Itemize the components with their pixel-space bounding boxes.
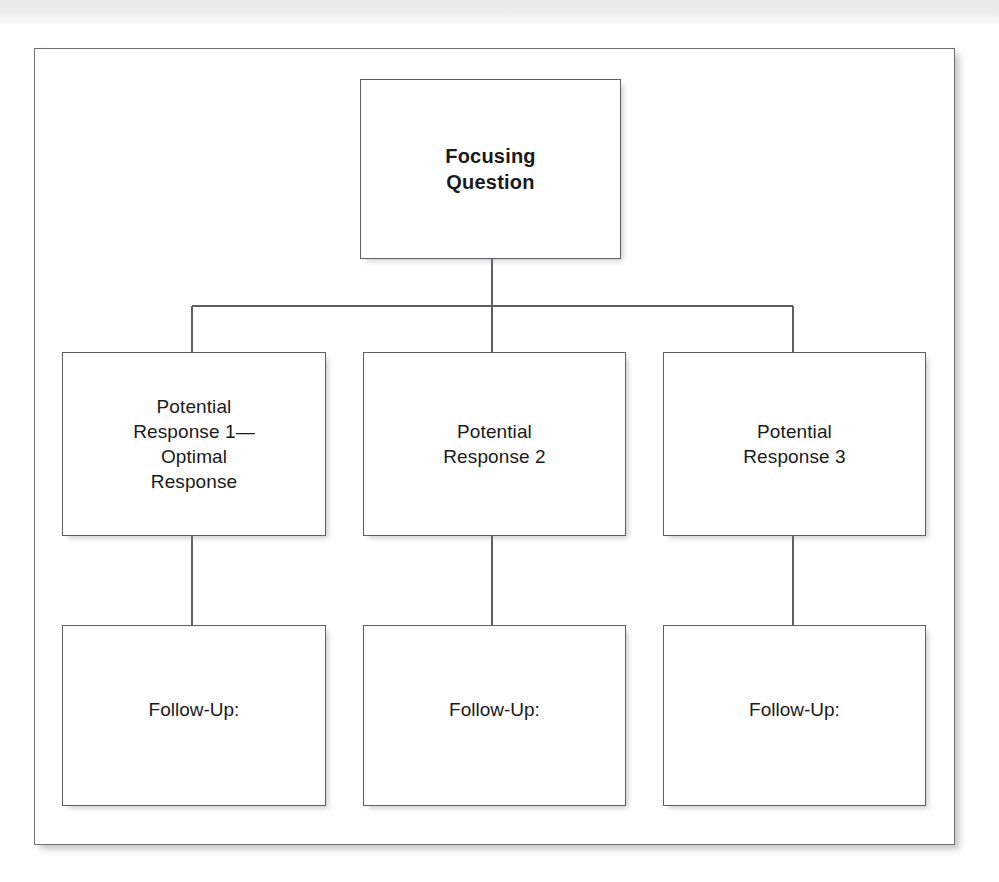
node-focusing-question-label: Focusing Question <box>435 143 546 196</box>
node-follow-up-2[interactable]: Follow-Up: <box>363 625 626 806</box>
node-potential-response-2[interactable]: Potential Response 2 <box>363 352 626 536</box>
node-follow-up-2-label: Follow-Up: <box>439 697 550 722</box>
node-potential-response-3-label: Potential Response 3 <box>733 419 855 469</box>
node-follow-up-1-label: Follow-Up: <box>139 697 250 722</box>
node-follow-up-1[interactable]: Follow-Up: <box>62 625 326 806</box>
node-potential-response-1[interactable]: Potential Response 1— Optimal Response <box>62 352 326 536</box>
node-focusing-question[interactable]: Focusing Question <box>360 79 621 259</box>
node-potential-response-1-label: Potential Response 1— Optimal Response <box>123 394 265 494</box>
scanned-page-header-strip: •••••••••••••••••••••••••••••• <box>0 0 999 26</box>
node-potential-response-3[interactable]: Potential Response 3 <box>663 352 926 536</box>
node-follow-up-3[interactable]: Follow-Up: <box>663 625 926 806</box>
node-follow-up-3-label: Follow-Up: <box>739 697 850 722</box>
node-potential-response-2-label: Potential Response 2 <box>433 419 555 469</box>
cropped-header-text: •••••••••••••••••••••••••••••• <box>40 0 959 4</box>
